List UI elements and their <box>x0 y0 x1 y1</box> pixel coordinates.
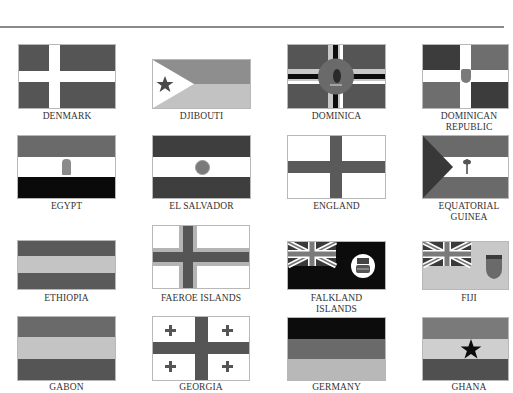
flag-gabon <box>18 317 115 380</box>
label-faeroe-islands: FAEROE ISLANDS <box>148 293 254 304</box>
bolnur-cross-icons <box>165 325 233 372</box>
tree-emblem-icon <box>463 159 471 174</box>
label-line-1: FALKLAND <box>288 293 385 304</box>
label-djibouti: DJIBOUTI <box>153 111 250 122</box>
label-ethiopia: ETHIOPIA <box>18 293 115 304</box>
label-germany: GERMANY <box>288 382 385 393</box>
label-fiji: FIJI <box>423 293 513 304</box>
label-line-1: DOMINICAN <box>423 111 513 122</box>
flag-dominica <box>288 45 385 108</box>
flag-england <box>288 136 385 198</box>
flag-denmark <box>19 45 115 108</box>
label-ghana: GHANA <box>423 382 513 393</box>
label-denmark: DENMARK <box>19 111 115 122</box>
flag-ethiopia <box>18 241 115 289</box>
flag-egypt <box>18 136 115 198</box>
flag-ghana <box>423 318 508 380</box>
label-equatorial-guinea: EQUATORIAL GUINEA <box>423 201 513 223</box>
label-dominica: DOMINICA <box>288 111 385 122</box>
fiji-shield-icon <box>486 255 502 279</box>
label-egypt: EGYPT <box>18 201 115 212</box>
union-jack-icon <box>288 242 336 266</box>
label-dominican-republic: DOMINICAN REPUBLIC <box>423 111 513 133</box>
label-georgia: GEORGIA <box>153 382 249 393</box>
flag-falkland-islands <box>288 242 385 289</box>
header-rule <box>0 26 504 28</box>
union-jack-icon <box>423 242 471 266</box>
label-falkland-islands: FALKLAND ISLANDS <box>288 293 385 315</box>
eagle-emblem-icon <box>62 159 71 175</box>
label-line-2: ISLANDS <box>288 304 385 315</box>
star-icon <box>461 339 482 359</box>
label-gabon: GABON <box>18 382 115 393</box>
label-england: ENGLAND <box>288 201 385 212</box>
falklands-crest-icon <box>351 254 375 278</box>
label-line-2: GUINEA <box>423 212 513 223</box>
coat-of-arms-icon <box>461 69 471 83</box>
label-line-1: EQUATORIAL <box>423 201 513 212</box>
flag-georgia <box>153 317 249 380</box>
label-line-2: REPUBLIC <box>423 122 513 133</box>
flag-el-salvador <box>153 136 250 198</box>
flag-faeroe-islands <box>153 226 249 288</box>
label-el-salvador: EL SALVADOR <box>153 201 250 212</box>
flag-dominican-republic <box>423 45 508 108</box>
coat-of-arms-icon <box>195 160 210 175</box>
flag-djibouti <box>153 60 250 108</box>
flag-fiji <box>423 242 508 289</box>
flag-germany <box>288 318 385 380</box>
flag-equatorial-guinea <box>423 136 508 198</box>
